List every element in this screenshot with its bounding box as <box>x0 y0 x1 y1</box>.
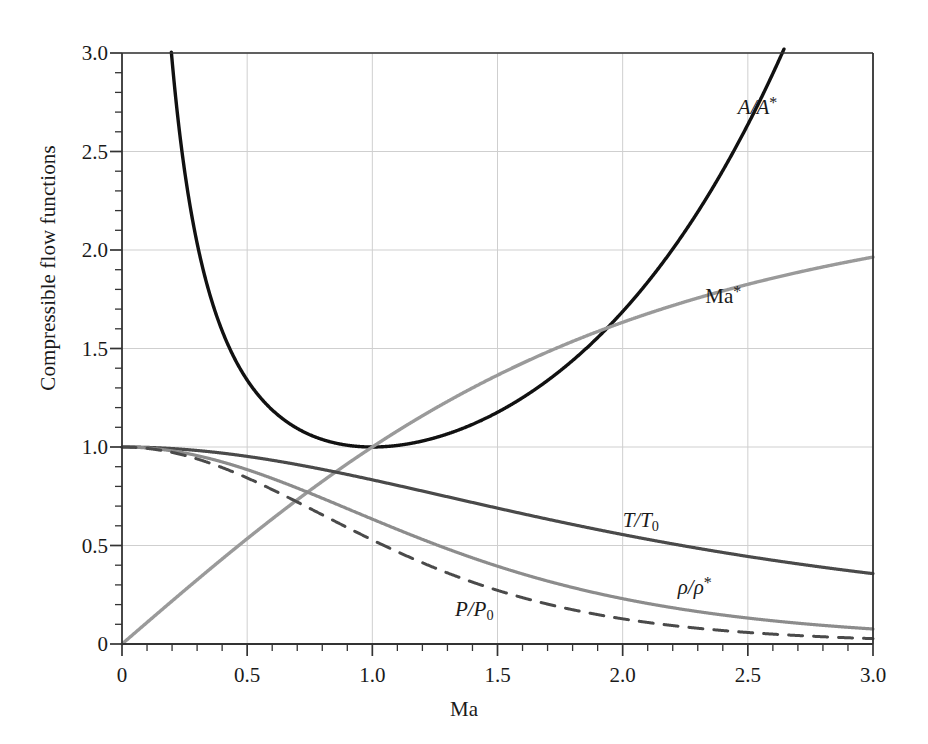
chart-plot-area <box>0 0 928 744</box>
curve-label-base: A/A <box>738 95 770 119</box>
y-tick-label: 3.0 <box>60 41 108 66</box>
x-tick-label: 1.5 <box>484 663 510 688</box>
x-tick-label: 2.5 <box>735 663 761 688</box>
curve-label-subscript: 0 <box>486 607 493 623</box>
curve-label-pressure-ratio: P/P0 <box>455 597 494 624</box>
y-tick-label: 1.0 <box>60 435 108 460</box>
y-tick-label: 0.5 <box>60 533 108 558</box>
curve-label-superscript: * <box>733 283 741 300</box>
curve-label-area-ratio: A/A* <box>738 94 777 120</box>
y-tick-label: 2.0 <box>60 238 108 263</box>
curve-label-superscript: * <box>704 574 712 591</box>
curve-label-temperature-ratio: T/T0 <box>623 508 659 535</box>
x-tick-label: 1.0 <box>359 663 385 688</box>
curve-a-a- <box>171 49 784 447</box>
curve-label-base: T/T <box>623 508 652 532</box>
chart-figure: Compressible flow functions Ma 00.51.01.… <box>0 0 928 744</box>
y-tick-label: 0 <box>60 632 108 657</box>
curve-label-base: P/P <box>455 597 487 621</box>
curve-label-density-ratio: ρ/ρ* <box>678 574 712 600</box>
x-tick-label: 3.0 <box>860 663 886 688</box>
y-tick-label: 1.5 <box>60 336 108 361</box>
x-axis-label: Ma <box>0 697 928 722</box>
curve-label-superscript: * <box>769 94 777 111</box>
curve-label-base: Ma <box>705 284 733 308</box>
x-tick-label: 2.0 <box>610 663 636 688</box>
curve-label-base: ρ/ρ <box>678 575 704 599</box>
curve-label-mach-star: Ma* <box>705 283 741 309</box>
curve-label-subscript: 0 <box>652 518 659 534</box>
x-tick-label: 0.5 <box>234 663 260 688</box>
y-tick-label: 2.5 <box>60 139 108 164</box>
x-tick-label: 0 <box>117 663 128 688</box>
